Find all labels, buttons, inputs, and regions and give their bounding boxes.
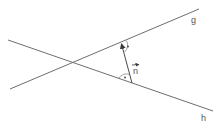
diagram-canvas: g h n [0, 0, 222, 129]
line-g-label: g [191, 15, 196, 25]
right-angle-dot-g [127, 46, 129, 48]
line-h-label: h [201, 113, 206, 123]
line-h [8, 40, 213, 111]
normal-vector-label-arrow-icon [132, 65, 139, 66]
normal-vector-label: n [133, 66, 138, 76]
right-angle-dot-h [124, 77, 126, 79]
line-g [10, 9, 199, 89]
